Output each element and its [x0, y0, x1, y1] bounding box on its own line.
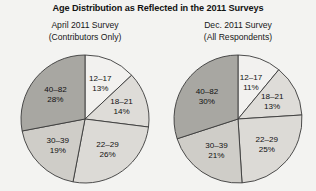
pie-slices-dec [174, 55, 302, 183]
pie-slice-value: 13% [92, 84, 108, 93]
pie-slice-value: 25% [259, 145, 275, 154]
pie-slice-label: 30–39 [205, 141, 228, 150]
pie-slice-label: 12–17 [240, 73, 263, 82]
panel-subtitle-april: April 2011 Survey (Contributors Only) [9, 20, 161, 43]
panel-subtitle-dec-line1: Dec. 2011 Survey [204, 20, 272, 30]
pie-slice-label: 30–39 [47, 136, 70, 145]
pie-slice-label: 18–21 [261, 92, 284, 101]
pie-slice-label: 40–82 [196, 87, 219, 96]
panel-subtitle-april-line1: April 2011 Survey [51, 20, 118, 30]
pie-slice-value: 21% [208, 151, 224, 160]
pie-slices-april [21, 55, 149, 183]
pie-panel-dec: Dec. 2011 Survey (All Respondents) 12–17… [162, 20, 314, 191]
pie-svg-april: 12–1713%18–2114%22–2926%30–3919%40–8228% [19, 53, 151, 185]
pie-chart-dec: 12–1711%18–2113%22–2925%30–3921%40–8230% [172, 53, 304, 185]
pie-slice-value: 11% [243, 83, 259, 92]
pie-slice-value: 30% [199, 97, 215, 106]
pie-svg-dec: 12–1711%18–2113%22–2925%30–3921%40–8230% [172, 53, 304, 185]
pie-panel-april: April 2011 Survey (Contributors Only) 12… [9, 20, 161, 191]
pie-slice-label: 40–82 [44, 85, 67, 94]
panel-subtitle-april-line2: (Contributors Only) [9, 32, 161, 44]
pie-slice-label: 18–21 [110, 97, 133, 106]
pie-slice-label: 22–29 [256, 135, 279, 144]
pie-slice-value: 19% [50, 146, 66, 155]
pie-slice-label: 12–17 [89, 74, 112, 83]
panel-subtitle-dec: Dec. 2011 Survey (All Respondents) [162, 20, 314, 43]
pie-slice-label: 22–29 [96, 140, 119, 149]
pie-slice-value: 14% [113, 107, 129, 116]
page-title: Age Distribution as Reflected in the 201… [0, 3, 316, 13]
pie-chart-april: 12–1713%18–2114%22–2926%30–3919%40–8228% [19, 53, 151, 185]
pie-slice-value: 28% [47, 95, 63, 104]
panel-subtitle-dec-line2: (All Respondents) [162, 32, 314, 44]
pie-slice-value: 26% [99, 150, 115, 159]
figure: Age Distribution as Reflected in the 201… [0, 0, 316, 191]
pie-slice-value: 13% [264, 102, 280, 111]
